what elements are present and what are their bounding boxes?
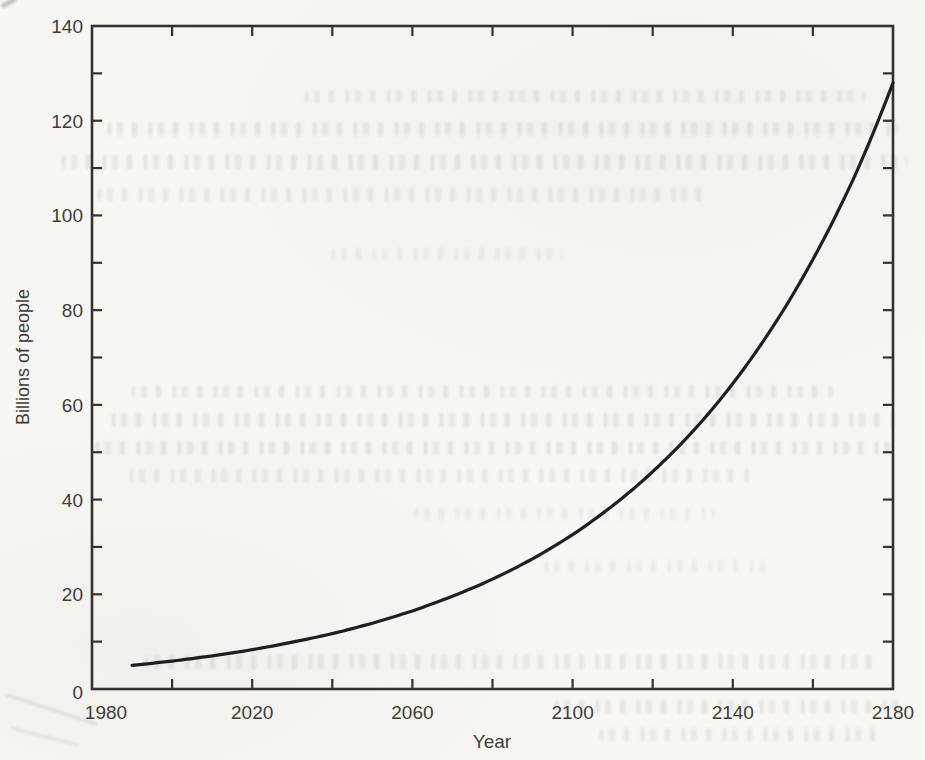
y-axis-title: Billions of people <box>13 289 34 425</box>
population-curve <box>132 83 893 666</box>
y-tick-label: 120 <box>51 112 83 132</box>
y-tick-label: 60 <box>62 396 83 416</box>
x-tick-label: 1980 <box>85 703 127 723</box>
chart-canvas <box>0 0 925 760</box>
plot-border <box>92 26 893 689</box>
x-tick-label: 2060 <box>391 703 433 723</box>
scanned-textbook-page: 198020202060210021402180 020406080100120… <box>0 0 925 760</box>
y-tick-label: 40 <box>62 491 83 511</box>
x-axis-title: Year <box>473 731 511 753</box>
x-tick-label: 2020 <box>231 703 273 723</box>
x-tick-label: 2100 <box>551 703 593 723</box>
y-tick-label: 140 <box>51 17 83 37</box>
y-tick-label: 20 <box>62 585 83 605</box>
y-tick-label: 100 <box>51 206 83 226</box>
x-tick-label: 2180 <box>872 703 914 723</box>
y-tick-label: 0 <box>72 683 83 703</box>
y-tick-label: 80 <box>62 301 83 321</box>
x-tick-label: 2140 <box>712 703 754 723</box>
